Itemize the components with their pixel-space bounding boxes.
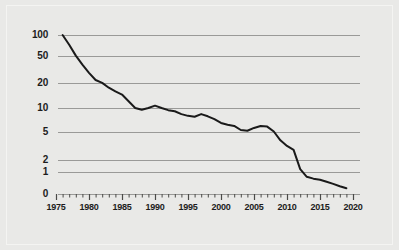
x-axis-tick-label: 1975 bbox=[39, 203, 73, 212]
x-axis-tick-label: 1990 bbox=[138, 203, 172, 212]
y-axis-tick-label: 2 bbox=[14, 155, 48, 165]
x-axis-tick-label: 1980 bbox=[72, 203, 106, 212]
chart-figure: 1005020105210 19751980198519901995200020… bbox=[0, 0, 399, 250]
y-axis-tick-label: 5 bbox=[14, 127, 48, 137]
y-axis-tick-label: 20 bbox=[14, 78, 48, 88]
gridlines bbox=[58, 36, 360, 195]
y-axis-tick-label: 1 bbox=[14, 167, 48, 177]
y-axis-tick-label: 0 bbox=[14, 189, 48, 199]
x-axis-tick-label: 2005 bbox=[237, 203, 271, 212]
x-axis-tick-label: 2010 bbox=[270, 203, 304, 212]
y-axis-tick-label: 10 bbox=[14, 103, 48, 113]
y-axis-tick-label: 50 bbox=[14, 51, 48, 61]
data-series-line bbox=[63, 35, 347, 188]
x-axis-tick-label: 2000 bbox=[204, 203, 238, 212]
x-axis-tick-label: 2015 bbox=[303, 203, 337, 212]
x-axis-tick-label: 1995 bbox=[171, 203, 205, 212]
line-chart-plot bbox=[0, 0, 399, 250]
y-axis-tick-label: 100 bbox=[14, 30, 48, 40]
x-axis-tick-label: 2020 bbox=[336, 203, 370, 212]
x-axis-tick-label: 1985 bbox=[105, 203, 139, 212]
